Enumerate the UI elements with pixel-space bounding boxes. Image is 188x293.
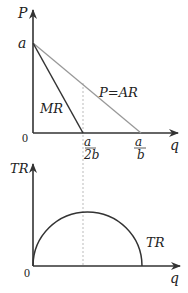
tr-curve	[33, 212, 142, 266]
q-axis-label-top: q	[170, 137, 179, 153]
origin-label-top: 0	[22, 131, 28, 145]
mr-label: MR	[39, 101, 63, 116]
ar-label: P=AR	[98, 85, 138, 100]
svg-text:a: a	[135, 135, 142, 149]
tr-axis-label: TR	[10, 161, 29, 176]
origin-label-bottom: 0	[24, 266, 30, 280]
tick-a-over-b: a b	[134, 135, 146, 162]
svg-text:a: a	[84, 135, 91, 149]
tr-curve-label: TR	[146, 235, 165, 250]
p-axis-label: P	[17, 5, 28, 21]
top-graph: P a 0 MR P=AR q a 2b a b	[17, 5, 179, 162]
q-axis-label-bottom: q	[170, 270, 179, 286]
tick-a-over-2b: a 2b	[83, 135, 99, 162]
a-intercept-label: a	[18, 35, 26, 51]
mr-line	[33, 43, 83, 133]
bottom-graph: TR TR 0 q	[10, 161, 180, 286]
svg-text:2b: 2b	[83, 148, 99, 162]
revenue-diagram: P a 0 MR P=AR q a 2b a b TR TR 0 q	[0, 0, 188, 293]
svg-text:b: b	[137, 148, 145, 162]
